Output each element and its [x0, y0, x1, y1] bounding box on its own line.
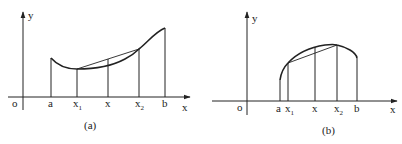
tick-label-a: a: [48, 97, 53, 109]
tick-label-a: a: [276, 102, 281, 114]
y-axis-label-a: y: [28, 9, 34, 21]
tick-label-x1: x1: [73, 97, 83, 112]
origin-label-b: o: [237, 101, 243, 113]
concave-curve: [280, 45, 357, 80]
caption-a: (a): [84, 119, 97, 132]
x-axis-label-a: x: [182, 101, 188, 113]
convexity-diagram: y x o a x1 x x2 b (a) y x o: [0, 0, 402, 144]
tick-label-x: x: [105, 97, 111, 109]
x-axis-label-b: x: [390, 103, 396, 115]
tick-label-x: x: [312, 102, 318, 114]
tick-label-x2: x2: [334, 102, 344, 117]
panel-b: y x o a x1 x x2 b (b): [212, 12, 397, 137]
panel-a: y x o a x1 x x2 b (a): [8, 9, 190, 132]
tick-label-b: b: [354, 102, 360, 114]
tick-label-x1: x1: [285, 102, 295, 117]
origin-label-a: o: [12, 97, 18, 109]
caption-b: (b): [322, 124, 335, 137]
tick-label-b: b: [162, 97, 168, 109]
tick-label-x2: x2: [135, 97, 145, 112]
y-axis-label-b: y: [252, 12, 258, 24]
